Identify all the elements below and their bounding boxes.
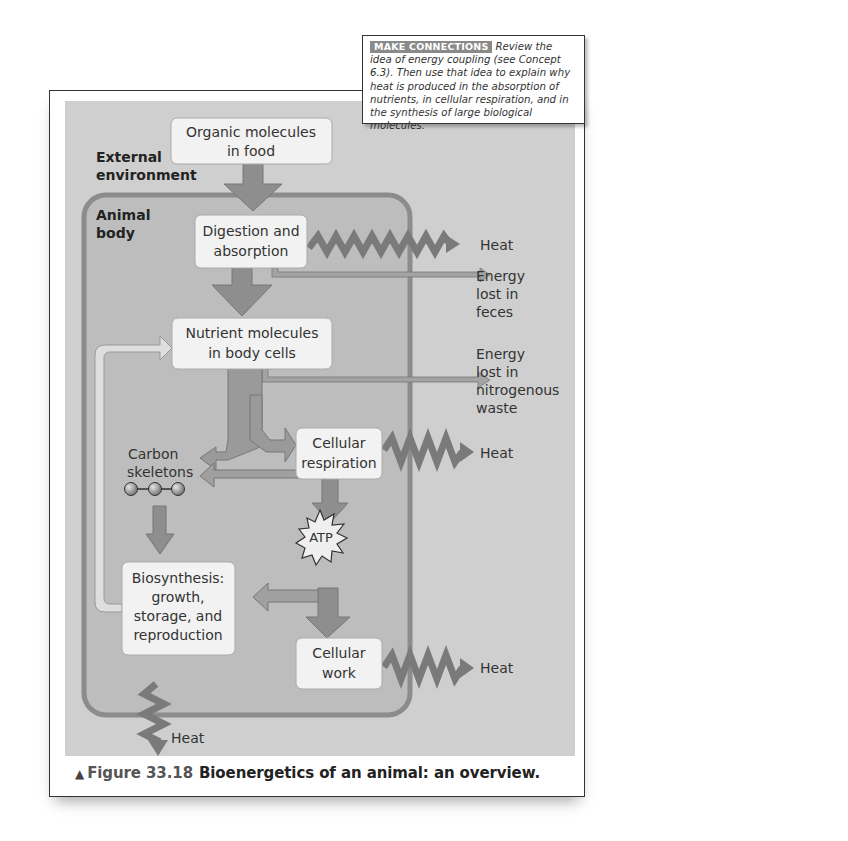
figure-number: Figure 33.18 [87,764,193,782]
label-feces-1: Energy [476,268,525,284]
label-nitro-4: waste [476,400,517,416]
triangle-marker-icon: ▲ [75,767,84,781]
label-nitro-1: Energy [476,346,525,362]
label-external-1: External [96,149,162,165]
label-digestion-1: Digestion and [202,223,299,239]
label-work-1: Cellular [312,645,366,661]
label-animal-2: body [96,225,135,241]
label-nitro-3: nitrogenous [476,382,559,398]
carbon-skeleton-icon [125,483,185,496]
label-respiration-1: Cellular [312,435,366,451]
label-nutrient-1: Nutrient molecules [186,325,319,341]
figure-caption: ▲Figure 33.18Bioenergetics of an animal:… [75,764,540,782]
label-nitro-2: lost in [476,364,518,380]
label-biosynthesis-2: growth, [151,589,204,605]
callout-text: Review the idea of energy coupling (see … [370,41,570,131]
label-biosynthesis-3: storage, and [134,608,222,624]
label-heat-digestion: Heat [480,237,514,253]
label-feces-3: feces [476,304,513,320]
label-heat-biosynthesis: Heat [171,730,205,746]
label-heat-respiration: Heat [480,445,514,461]
label-nutrient-2: in body cells [208,345,296,361]
label-heat-work: Heat [480,660,514,676]
label-feces-2: lost in [476,286,518,302]
label-external-2: environment [96,167,197,183]
label-animal-1: Animal [96,207,150,223]
label-work-2: work [322,665,357,681]
make-connections-tag: MAKE CONNECTIONS [370,41,492,53]
make-connections-callout: MAKE CONNECTIONSReview the idea of energ… [362,35,585,124]
label-digestion-2: absorption [214,243,289,259]
figure-title: Bioenergetics of an animal: an overview. [199,764,540,782]
label-carbon-2: skeletons [127,464,193,480]
label-carbon-1: Carbon [128,446,178,462]
label-organic-1: Organic molecules [186,124,316,140]
label-organic-2: in food [227,143,275,159]
label-biosynthesis-1: Biosynthesis: [132,570,225,586]
label-biosynthesis-4: reproduction [133,627,222,643]
label-respiration-2: respiration [301,455,376,471]
label-atp: ATP [309,530,333,545]
